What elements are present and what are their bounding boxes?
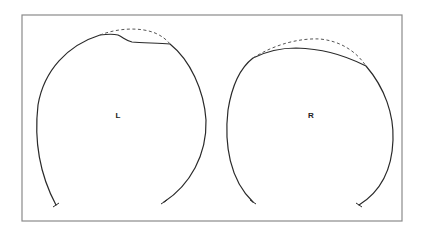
figure-frame [22, 15, 402, 221]
left-head-outline [37, 29, 206, 207]
left-label: L [116, 111, 121, 120]
right-head-outline [227, 39, 393, 207]
diagram-figure [0, 0, 424, 235]
right-label: R [308, 111, 314, 120]
